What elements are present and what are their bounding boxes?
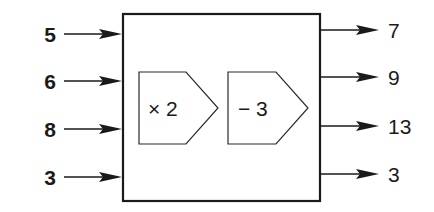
output-2: 9 bbox=[321, 66, 400, 89]
output-value: 3 bbox=[388, 163, 400, 186]
input-value: 5 bbox=[44, 23, 56, 46]
input-3: 8 bbox=[44, 118, 122, 141]
input-1: 5 bbox=[44, 23, 122, 46]
output-value: 13 bbox=[388, 115, 411, 138]
output-value: 7 bbox=[388, 19, 400, 42]
input-4: 3 bbox=[44, 166, 122, 189]
output-3: 13 bbox=[321, 115, 411, 138]
input-2: 6 bbox=[44, 70, 122, 93]
operation-label: × 2 bbox=[148, 97, 178, 120]
output-4: 3 bbox=[321, 163, 400, 186]
operation-label: − 3 bbox=[238, 97, 268, 120]
output-value: 9 bbox=[388, 66, 400, 89]
input-value: 8 bbox=[44, 118, 56, 141]
input-value: 6 bbox=[44, 70, 56, 93]
input-value: 3 bbox=[44, 166, 56, 189]
function-machine-diagram: × 2 − 3 5683 79133 bbox=[0, 0, 434, 212]
output-1: 7 bbox=[321, 19, 400, 42]
